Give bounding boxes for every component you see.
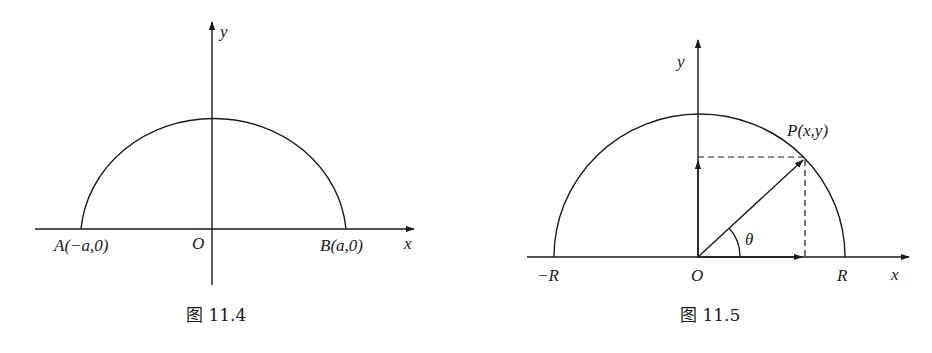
y-axis-label: y	[218, 22, 228, 41]
pos-r-label: R	[836, 266, 848, 285]
point-p-label: P(x,y)	[786, 121, 828, 140]
origin-label: O	[691, 266, 703, 285]
figure-caption: 图 11.4	[186, 305, 246, 325]
angle-theta-arc	[729, 228, 740, 257]
semicircle-arc	[81, 118, 346, 229]
neg-r-label: −R	[537, 266, 559, 285]
point-b-label: B(a,0)	[320, 236, 363, 255]
angle-theta-label: θ	[745, 230, 753, 249]
figure-11-4: y x O A(−a,0) B(a,0) 图 11.4	[35, 22, 414, 325]
figure-caption: 图 11.5	[680, 305, 740, 325]
figure-11-5: y x O −R R P(x,y) θ 图 11.5	[527, 40, 909, 325]
point-a-label: A(−a,0)	[53, 236, 109, 255]
x-axis-label: x	[890, 265, 899, 284]
origin-label: O	[192, 234, 204, 253]
diagram-canvas: y x O A(−a,0) B(a,0) 图 11.4 y x O −R R P…	[0, 0, 932, 353]
y-axis-label: y	[675, 52, 685, 71]
x-axis-label: x	[403, 234, 412, 253]
